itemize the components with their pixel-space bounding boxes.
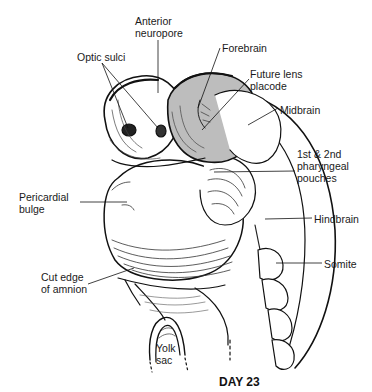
label-forebrain: Forebrain <box>222 42 267 54</box>
label-anterior-neuropore: Anterior neuropore <box>135 15 183 39</box>
label-pharyngeal-pouches: 1st & 2nd pharyngeal pouches <box>297 148 349 184</box>
label-somite: Somite <box>324 258 357 270</box>
label-hindbrain: Hindbrain <box>314 213 359 225</box>
label-midbrain: Midbrain <box>280 104 320 116</box>
label-yolk-sac: Yolk sac <box>156 342 175 366</box>
embryo-illustration: Anterior neuropore Optic sulci Forebrain… <box>0 0 372 392</box>
figure-caption: DAY 23 <box>219 375 260 389</box>
label-optic-sulci: Optic sulci <box>77 51 125 63</box>
label-pericardial-bulge: Pericardial bulge <box>19 191 69 215</box>
label-future-lens-placode: Future lens placode <box>250 68 303 92</box>
label-cut-edge-amnion: Cut edge of amnion <box>41 271 87 295</box>
